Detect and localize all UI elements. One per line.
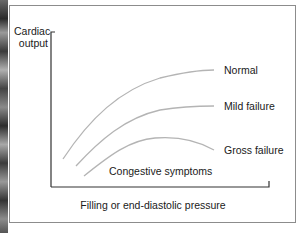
curve-mild-failure [76, 106, 214, 166]
label-mild-failure: Mild failure [224, 100, 275, 112]
y-axis-label-line2: output [14, 37, 48, 49]
y-axis-label-line1: Cardiac [14, 25, 48, 37]
y-axis [51, 32, 55, 187]
label-congestive-symptoms: Congestive symptoms [109, 165, 212, 177]
label-normal: Normal [224, 64, 258, 76]
x-axis-label: Filling or end-diastolic pressure [0, 199, 306, 211]
x-axis [51, 181, 269, 187]
label-gross-failure: Gross failure [224, 144, 284, 156]
y-axis-label: Cardiac output [14, 25, 48, 49]
curve-normal [63, 70, 214, 159]
